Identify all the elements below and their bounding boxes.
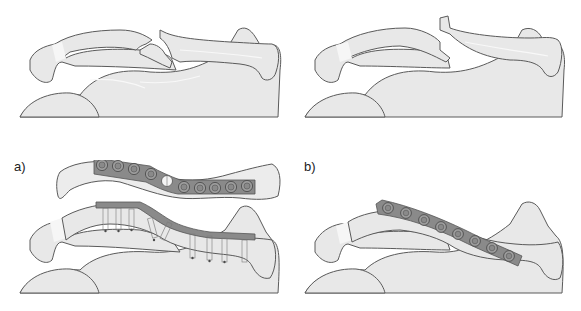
fracture-illustration-1 [0, 0, 290, 140]
panel-top-right-fracture [290, 0, 581, 140]
panel-top-left-fracture [0, 0, 290, 140]
fracture-illustration-2 [290, 0, 581, 140]
panel-a-plate-fixation [0, 160, 290, 311]
plate-fixation-illustration-b [290, 160, 581, 311]
superior-view-clavicle [57, 160, 280, 199]
panel-b-plate-fixation [290, 160, 581, 311]
anterior-view-shoulder [20, 202, 279, 293]
plate-fixation-illustration-a [0, 160, 290, 311]
